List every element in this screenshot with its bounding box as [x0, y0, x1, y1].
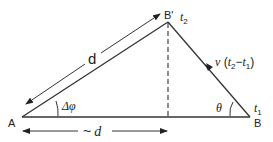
theta-arc [230, 102, 233, 116]
t1-label: t1 [254, 101, 262, 117]
side-AB-prime [22, 22, 168, 117]
t2-label: t2 [180, 10, 188, 26]
velocity-label: v (t2−t1) [215, 55, 254, 71]
point-B-prime-label: B' [164, 9, 173, 21]
bottom-distance-label: ~d [83, 123, 102, 139]
delta-phi-arc [56, 101, 58, 116]
point-A-label: A [8, 117, 16, 129]
triangle-diagram: d ~d Δφ θ A B B' t2 t1 v (t2−t1) [0, 0, 273, 142]
point-B-label: B [254, 117, 261, 129]
top-distance-label: d [88, 50, 96, 67]
theta-label: θ [216, 101, 222, 115]
delta-phi-label: Δφ [61, 99, 76, 113]
top-distance-arrow-left [26, 64, 85, 104]
